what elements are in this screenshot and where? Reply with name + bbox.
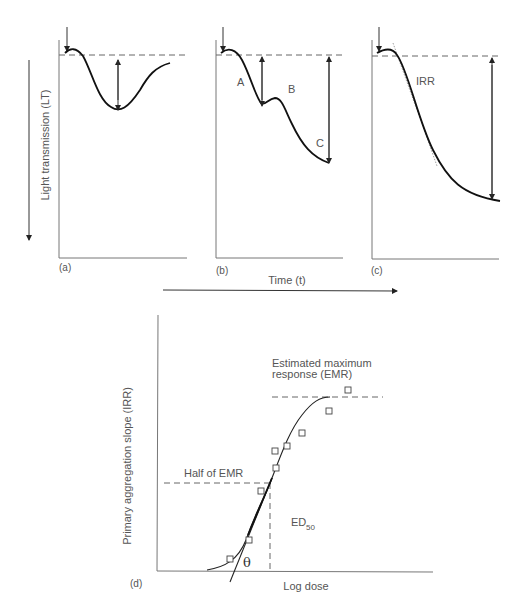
panel-b: A B C (b) xyxy=(216,27,343,276)
svg-text:(d): (d) xyxy=(130,578,142,589)
svg-text:IRR: IRR xyxy=(416,75,435,87)
svg-text:A: A xyxy=(237,76,245,88)
svg-text:(b): (b) xyxy=(216,265,228,276)
time-arrow-icon xyxy=(163,290,397,291)
panel-c: IRR (c) xyxy=(371,27,500,276)
figure-canvas: Light transmission (LT) (a) A B C (b) xyxy=(0,0,524,607)
svg-text:Log dose: Log dose xyxy=(283,580,328,592)
time-axis: Time (t) xyxy=(163,274,397,291)
panel-c-axes xyxy=(372,40,499,259)
svg-text:C: C xyxy=(316,137,324,149)
panel-a-axes xyxy=(59,40,187,258)
svg-text:(c): (c) xyxy=(371,265,383,276)
panel-d-axes xyxy=(157,315,433,572)
data-points xyxy=(227,387,351,562)
svg-text:response (EMR): response (EMR) xyxy=(272,368,352,380)
svg-text:Time (t): Time (t) xyxy=(268,274,305,286)
svg-text:(a): (a) xyxy=(59,262,71,273)
panel-a: (a) xyxy=(59,27,187,273)
svg-text:ED: ED xyxy=(291,516,306,528)
panel-b-axes xyxy=(216,40,343,258)
svg-text:Light transmission (LT): Light transmission (LT) xyxy=(39,89,51,200)
svg-text:B: B xyxy=(288,83,295,95)
svg-text:Primary aggregation slope (IRR: Primary aggregation slope (IRR) xyxy=(121,387,133,545)
svg-text:θ: θ xyxy=(243,555,251,570)
svg-text:Half of EMR: Half of EMR xyxy=(184,467,243,479)
panel-d: Primary aggregation slope (IRR) Estimate… xyxy=(121,315,433,592)
y-axis-label-lt: Light transmission (LT) xyxy=(39,89,51,200)
svg-text:50: 50 xyxy=(306,523,315,532)
